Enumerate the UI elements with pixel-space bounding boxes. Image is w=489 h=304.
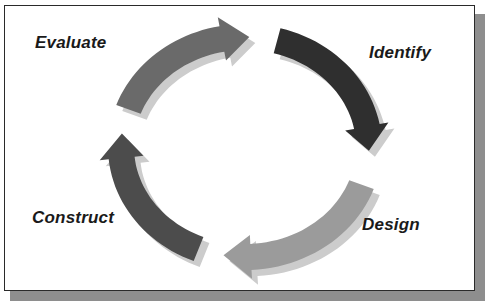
stage-label-identify: Identify <box>369 43 431 63</box>
stage-label-construct: Construct <box>32 208 114 228</box>
arrow-evaluate-to-identify <box>116 17 249 114</box>
stage-label-evaluate: Evaluate <box>35 33 107 53</box>
stage-label-design: Design <box>362 215 420 235</box>
